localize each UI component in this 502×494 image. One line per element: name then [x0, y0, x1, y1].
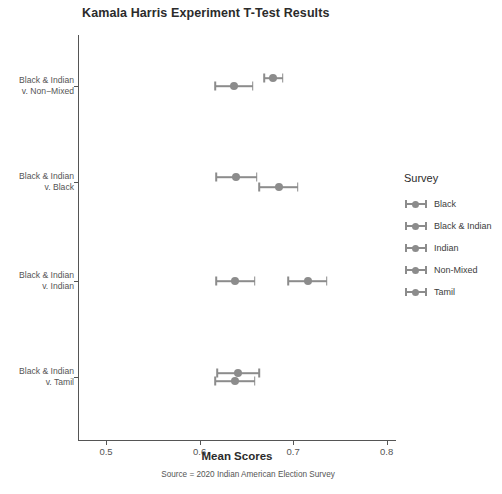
error-bar-cap [216, 173, 218, 182]
error-bar-cap [259, 183, 261, 192]
y-tick [74, 281, 78, 282]
legend-title: Survey [404, 172, 502, 184]
data-point [304, 277, 312, 285]
y-axis-label-line: v. Indian [0, 281, 74, 292]
error-bar-cap [326, 277, 328, 286]
y-axis-label-line: v. Non−Mixed [0, 86, 74, 97]
x-tick [200, 441, 201, 445]
plot-panel: 0.50.60.70.8 [78, 35, 396, 440]
y-axis-label: Black & Indianv. Non−Mixed [0, 75, 74, 97]
legend-label: Black [434, 199, 456, 209]
legend-item[interactable]: Tamil [404, 281, 502, 303]
legend-label: Black & Indian [434, 221, 492, 231]
y-axis-label: Black & Indianv. Black [0, 171, 74, 193]
legend-item[interactable]: Black & Indian [404, 215, 502, 237]
y-tick [74, 182, 78, 183]
error-bar-cap [254, 277, 256, 286]
legend-label: Indian [434, 243, 459, 253]
error-bar-cap [215, 82, 217, 91]
legend-label: Tamil [434, 287, 455, 297]
legend-marker-icon [404, 264, 428, 276]
legend-marker-icon [404, 242, 428, 254]
error-bar-cap [216, 277, 218, 286]
y-tick [74, 377, 78, 378]
x-tick [293, 441, 294, 445]
y-axis-label: Black & Indianv. Tamil [0, 366, 74, 388]
y-axis-label-line: Black & Indian [0, 366, 74, 377]
legend-item[interactable]: Indian [404, 237, 502, 259]
legend: Survey BlackBlack & IndianIndianNon-Mixe… [404, 172, 502, 303]
y-axis-label-line: Black & Indian [0, 171, 74, 182]
x-axis-line [78, 440, 396, 441]
legend-marker-icon [404, 286, 428, 298]
error-bar-cap [215, 377, 217, 386]
error-bar-cap [282, 74, 284, 83]
error-bar-cap [254, 377, 256, 386]
y-axis-label-line: Black & Indian [0, 75, 74, 86]
error-bar-cap [256, 173, 258, 182]
error-bar-cap [297, 183, 299, 192]
chart-title: Kamala Harris Experiment T-Test Results [82, 6, 330, 20]
y-axis-label-line: v. Black [0, 182, 74, 193]
legend-items: BlackBlack & IndianIndianNon-MixedTamil [404, 193, 502, 303]
x-tick [106, 441, 107, 445]
legend-item[interactable]: Black [404, 193, 502, 215]
error-bar-cap [217, 369, 219, 378]
error-bar-cap [252, 82, 254, 91]
y-axis-line [78, 35, 79, 440]
y-axis-label-line: Black & Indian [0, 270, 74, 281]
y-axis-label-line: v. Tamil [0, 377, 74, 388]
error-bar-cap [263, 74, 265, 83]
data-point [275, 183, 283, 191]
data-point [269, 74, 277, 82]
chart-caption: Source = 2020 Indian American Election S… [78, 470, 418, 479]
y-tick [74, 86, 78, 87]
x-tick [387, 441, 388, 445]
legend-marker-icon [404, 220, 428, 232]
legend-marker-icon [404, 198, 428, 210]
data-point [231, 277, 239, 285]
data-point [230, 82, 238, 90]
data-point [232, 173, 240, 181]
data-point [234, 369, 242, 377]
chart-root: Kamala Harris Experiment T-Test Results … [0, 0, 502, 494]
data-point [231, 377, 239, 385]
error-bar-cap [259, 369, 261, 378]
legend-item[interactable]: Non-Mixed [404, 259, 502, 281]
y-axis-label: Black & Indianv. Indian [0, 270, 74, 292]
x-axis-title: Mean Scores [78, 450, 396, 462]
legend-label: Non-Mixed [434, 265, 478, 275]
error-bar-cap [288, 277, 290, 286]
